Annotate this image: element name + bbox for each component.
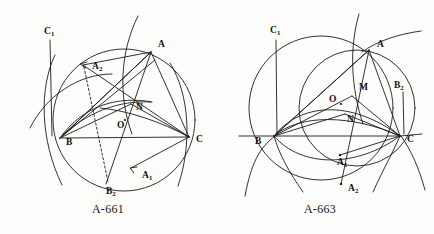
figure-caption: A-663 [304,202,336,216]
label-b2: B2 [106,186,116,197]
label-m: M [359,82,368,92]
line-c1-vertical [276,40,277,136]
label-c: C [407,134,414,144]
point-marker-o [340,103,342,105]
label-b: B [66,137,73,147]
construction-arc-lower-left-2 [274,136,303,192]
label-b2: B2 [394,80,404,91]
chord-a-to-b [274,50,369,136]
arc-b-to-c-middle [274,120,400,137]
label-o: O [329,94,336,104]
line-c1-vertical [50,40,52,136]
chord-b-steep [60,60,155,138]
construction-arc-lower-right-2 [401,136,425,190]
line-b2-vertical [403,92,404,134]
side-bc [60,137,189,138]
chord-a-b [60,52,151,138]
label-c: C [196,134,203,144]
arrowhead-a1 [130,167,137,173]
figure-sheet: C1 A2 A N O B C A1 B2 A-661 [0,0,434,234]
figure-a-661: C1 A2 A N O B C A1 B2 A-661 [0,0,217,234]
label-a: A [377,39,384,49]
construction-arc-through-a [123,16,138,134]
construction-arc-through-a [353,14,363,124]
figure-a-663: C1 A B2 M O N B C A1 A2 A-663 [217,0,434,234]
figure-caption: A-661 [92,202,124,216]
arc-b-to-c-upper [274,110,400,136]
point-marker-a2 [340,183,342,185]
label-a2: A2 [92,61,103,72]
point-marker-a1 [339,154,341,156]
label-o: O [117,120,124,130]
label-n: N [136,102,143,112]
label-a1: A1 [142,170,153,181]
label-c1: C1 [270,25,281,36]
label-n: N [347,114,354,124]
construction-arc-top-right [362,31,421,52]
label-a2: A2 [348,183,359,194]
construction-arc-right [170,63,187,186]
label-c1: C1 [44,26,55,37]
label-b: B [255,136,262,146]
chord-b-to-m [274,96,352,136]
label-a: A [158,39,165,49]
